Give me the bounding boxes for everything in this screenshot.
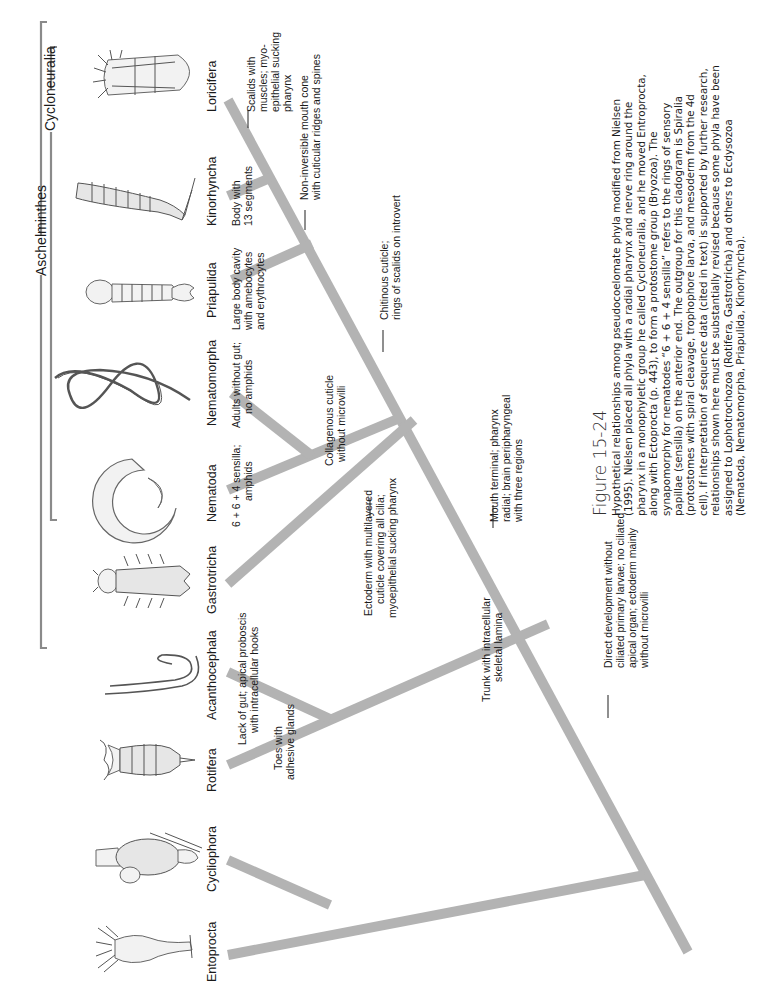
clade-label-cycloneuralia: Cycloneuralia	[42, 46, 58, 131]
taxon-nematomorpha: Nematomorpha	[205, 340, 219, 426]
char-body-13-segments: Body with 13 segments	[230, 166, 254, 226]
kinorhyncha-illustration	[76, 178, 195, 220]
char-ectoderm-multilayered: Ectoderm with multilayered cuticle cover…	[362, 477, 398, 618]
rotifera-illustration	[100, 740, 195, 780]
taxon-priapulida: Priapulida	[205, 262, 219, 318]
priapulida-illustration	[86, 280, 194, 304]
entoprocta-illustration	[96, 926, 192, 972]
nematoda-illustration	[93, 459, 176, 543]
loricifera-illustration	[93, 50, 190, 98]
organism-illustrations	[55, 50, 202, 972]
char-scalids: Scalids with muscles; myo- epithelial su…	[245, 29, 293, 112]
figure-number: Figure 15-24	[590, 410, 610, 516]
char-collagenous-cuticle: Collagenous cuticle without microvilli	[323, 372, 347, 466]
taxon-labels: Entoprocta Cycliophora Rotifera Acanthoc…	[205, 61, 219, 982]
gastrotricha-illustration	[93, 554, 190, 608]
taxon-acanthocephala: Acanthocephala	[205, 630, 219, 720]
char-toes-adhesive-glands: Toes with adhesive glands	[272, 704, 296, 780]
taxon-rotifera: Rotifera	[205, 748, 219, 792]
taxon-loricifera: Loricifera	[205, 61, 219, 112]
char-large-body-cavity: Large body cavity with amebocytes and er…	[230, 245, 266, 331]
taxon-nematoda: Nematoda	[205, 464, 219, 522]
caption-text: Hypothetical relationships among pseudoc…	[610, 62, 746, 516]
cycliophora-illustration	[96, 833, 202, 883]
clade-label-aschelminthes: Aschelminthes	[33, 185, 49, 276]
taxon-kinorhyncha: Kinorhyncha	[205, 156, 219, 226]
taxon-cycliophora: Cycliophora	[205, 826, 219, 892]
char-sensilla-amphids: 6 + 6 + 4 sensilla; amphids	[230, 442, 254, 527]
char-direct-development: Direct development without ciliated prim…	[602, 510, 650, 669]
char-chitinous-cuticle: Chitinous cuticle; rings of scalids on i…	[378, 195, 402, 320]
nematomorpha-illustration	[55, 364, 190, 408]
character-ticks	[248, 110, 608, 718]
char-mouth-terminal: Mouth terminal; pharynx radial; brain pe…	[488, 392, 524, 523]
char-adults-without-gut: Adults without gut; no amphids	[230, 339, 254, 428]
taxon-gastrotricha: Gastrotricha	[205, 546, 219, 614]
figure-caption: Figure 15-24 Hypothetical relationships …	[590, 62, 746, 516]
acanthocephala-illustration	[105, 655, 199, 694]
char-non-inversible-mouth-cone: Non-inversible mouth cone with cuticular…	[298, 54, 322, 201]
cladogram-figure: Aschelminthes Cycloneuralia Entoprocta C…	[0, 0, 781, 998]
taxon-entoprocta: Entoprocta	[205, 921, 219, 982]
char-lack-of-gut: Lack of gut; apical proboscis with intra…	[236, 610, 260, 745]
